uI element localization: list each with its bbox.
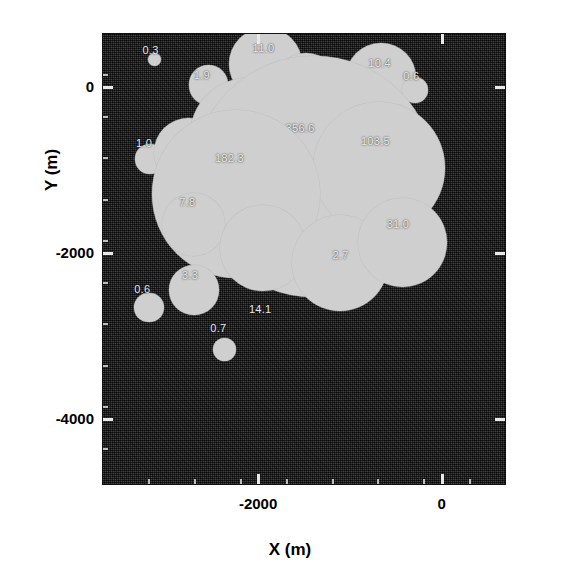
y-axis-minor-tick: [102, 74, 108, 76]
y-axis-major-tick-right: [495, 418, 506, 421]
data-point-label: 11.0: [253, 42, 275, 54]
y-axis-title: Y (m): [42, 110, 62, 230]
x-axis-minor-tick: [332, 479, 334, 485]
y-axis-minor-tick: [102, 448, 108, 450]
x-axis-major-tick-bottom: [441, 474, 444, 485]
data-point-label: 0.3: [142, 44, 158, 56]
data-point-label: 10.4: [368, 57, 391, 69]
x-axis-minor-tick: [148, 479, 150, 485]
y-axis-major-tick: [102, 86, 113, 89]
y-axis-minor-tick: [102, 406, 108, 408]
data-point-label: 7.8: [179, 196, 195, 208]
y-axis-minor-tick: [102, 116, 108, 118]
data-point-label: 182.3: [215, 152, 244, 164]
x-axis-minor-tick: [423, 479, 425, 485]
data-point-label: 0.6: [403, 70, 419, 82]
x-axis-major-tick: [257, 33, 260, 44]
x-axis-minor-tick: [377, 479, 379, 485]
x-axis-minor-tick: [286, 479, 288, 485]
data-point-bubble: [358, 198, 447, 287]
y-axis-minor-tick: [102, 282, 108, 284]
y-axis-minor-tick: [102, 157, 108, 159]
y-axis-major-tick: [102, 418, 113, 421]
data-point-label: 103.5: [361, 135, 390, 147]
x-axis-major-tick: [441, 33, 444, 44]
data-point-bubble: [220, 205, 306, 291]
data-point-label: 1.0: [136, 137, 152, 149]
y-tick-label: -2000: [24, 244, 94, 261]
y-axis-minor-tick: [102, 365, 108, 367]
y-axis-major-tick: [102, 252, 113, 255]
x-tick-label: 0: [382, 495, 502, 512]
y-tick-label: 0: [24, 78, 94, 95]
data-point-label: 1.9: [194, 69, 210, 81]
data-point-label: 2.7: [332, 249, 348, 261]
x-axis-minor-tick: [469, 479, 471, 485]
figure-canvas: 0.31.911.09.410.40.61.010.663.7356.6103.…: [0, 0, 580, 577]
x-axis-major-tick-bottom: [257, 474, 260, 485]
x-axis-minor-tick: [194, 479, 196, 485]
data-point-label: 14.1: [249, 303, 272, 315]
y-tick-label: -4000: [24, 410, 94, 427]
y-axis-minor-tick: [102, 199, 108, 201]
y-axis-minor-tick: [102, 323, 108, 325]
data-point-label: 3.3: [182, 269, 198, 281]
y-axis-major-tick-right: [495, 86, 506, 89]
plot-area: 0.31.911.09.410.40.61.010.663.7356.6103.…: [102, 33, 506, 485]
data-point-bubble: [134, 293, 164, 323]
data-point-bubble: [213, 338, 236, 361]
data-point-label: 31.0: [387, 218, 410, 230]
x-tick-label: -2000: [198, 495, 318, 512]
y-axis-minor-tick: [102, 240, 108, 242]
data-point-label: 0.7: [210, 322, 226, 334]
data-point-label: 0.6: [134, 283, 150, 295]
x-axis-title: X (m): [0, 540, 580, 560]
y-axis-major-tick-right: [495, 252, 506, 255]
x-axis-minor-tick: [240, 479, 242, 485]
